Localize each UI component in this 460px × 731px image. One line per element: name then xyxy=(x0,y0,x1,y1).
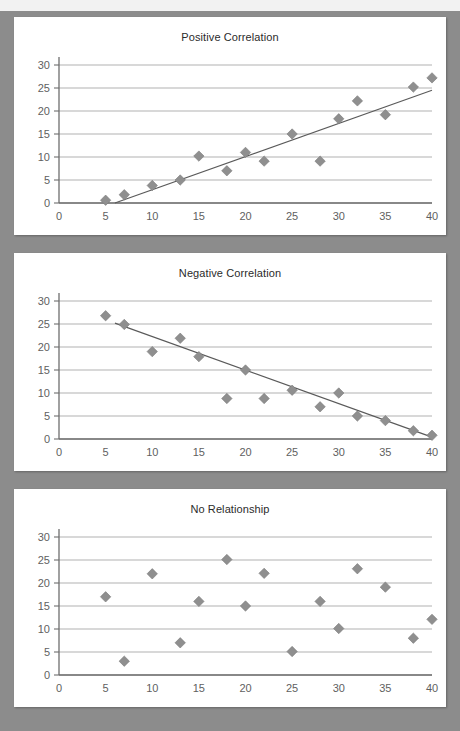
x-tick-label: 25 xyxy=(286,446,298,458)
data-point-marker xyxy=(315,402,325,412)
data-point-marker xyxy=(352,564,362,574)
x-tick-label: 5 xyxy=(103,446,109,458)
data-point-marker xyxy=(427,73,437,83)
data-point-marker xyxy=(240,365,250,375)
x-tick-label: 15 xyxy=(193,682,205,694)
data-point-marker xyxy=(287,129,297,139)
data-point-marker xyxy=(259,393,269,403)
y-tick-label: 5 xyxy=(44,646,50,658)
scatter-plot: 0510152025300510152025303540 xyxy=(14,253,446,471)
data-point-marker xyxy=(240,147,250,157)
x-tick-label: 20 xyxy=(239,210,251,222)
y-tick-label: 25 xyxy=(38,554,50,566)
x-tick-label: 10 xyxy=(146,210,158,222)
y-tick-label: 5 xyxy=(44,410,50,422)
data-point-marker xyxy=(222,393,232,403)
y-tick-label: 15 xyxy=(38,128,50,140)
data-point-marker xyxy=(175,333,185,343)
data-point-marker xyxy=(100,195,110,205)
data-point-marker xyxy=(175,638,185,648)
data-point-marker xyxy=(222,166,232,176)
x-tick-label: 40 xyxy=(426,446,438,458)
x-tick-label: 0 xyxy=(56,446,62,458)
x-tick-label: 30 xyxy=(333,210,345,222)
data-point-marker xyxy=(380,582,390,592)
x-tick-label: 35 xyxy=(379,682,391,694)
y-tick-label: 5 xyxy=(44,174,50,186)
chart-card: Negative Correlation05101520253005101520… xyxy=(14,253,446,471)
x-tick-label: 40 xyxy=(426,210,438,222)
y-tick-label: 25 xyxy=(38,318,50,330)
data-point-marker xyxy=(287,646,297,656)
chart-card: Positive Correlation05101520253005101520… xyxy=(14,17,446,235)
data-point-marker xyxy=(194,151,204,161)
x-tick-label: 30 xyxy=(333,682,345,694)
x-tick-label: 10 xyxy=(146,682,158,694)
y-tick-label: 0 xyxy=(44,433,50,445)
data-point-marker xyxy=(352,96,362,106)
data-point-marker xyxy=(194,351,204,361)
y-tick-label: 20 xyxy=(38,577,50,589)
x-tick-label: 25 xyxy=(286,210,298,222)
y-tick-label: 25 xyxy=(38,82,50,94)
trendline xyxy=(115,90,432,203)
x-tick-label: 15 xyxy=(193,210,205,222)
x-tick-label: 5 xyxy=(103,682,109,694)
x-tick-label: 20 xyxy=(239,682,251,694)
data-point-marker xyxy=(315,156,325,166)
data-point-marker xyxy=(175,175,185,185)
data-point-marker xyxy=(334,388,344,398)
data-point-marker xyxy=(119,656,129,666)
x-tick-label: 25 xyxy=(286,682,298,694)
y-tick-label: 30 xyxy=(38,59,50,71)
data-point-marker xyxy=(408,82,418,92)
x-tick-label: 5 xyxy=(103,210,109,222)
y-tick-label: 0 xyxy=(44,669,50,681)
x-tick-label: 0 xyxy=(56,210,62,222)
data-point-marker xyxy=(408,426,418,436)
y-tick-label: 10 xyxy=(38,623,50,635)
data-point-marker xyxy=(222,554,232,564)
chart-card: No Relationship0510152025300510152025303… xyxy=(14,489,446,707)
data-point-marker xyxy=(147,569,157,579)
y-tick-label: 30 xyxy=(38,295,50,307)
y-tick-label: 10 xyxy=(38,151,50,163)
y-tick-label: 20 xyxy=(38,105,50,117)
data-point-marker xyxy=(408,633,418,643)
data-point-marker xyxy=(100,311,110,321)
data-point-marker xyxy=(287,385,297,395)
x-tick-label: 40 xyxy=(426,682,438,694)
data-point-marker xyxy=(194,596,204,606)
y-tick-label: 15 xyxy=(38,600,50,612)
data-point-marker xyxy=(427,614,437,624)
x-tick-label: 15 xyxy=(193,446,205,458)
data-point-marker xyxy=(380,415,390,425)
scatter-plot: 0510152025300510152025303540 xyxy=(14,489,446,707)
data-point-marker xyxy=(352,411,362,421)
data-point-marker xyxy=(259,156,269,166)
y-tick-label: 0 xyxy=(44,197,50,209)
x-tick-label: 20 xyxy=(239,446,251,458)
x-tick-label: 0 xyxy=(56,682,62,694)
data-point-marker xyxy=(240,601,250,611)
data-point-marker xyxy=(334,623,344,633)
x-tick-label: 30 xyxy=(333,446,345,458)
y-tick-label: 10 xyxy=(38,387,50,399)
data-point-marker xyxy=(315,596,325,606)
x-tick-label: 35 xyxy=(379,210,391,222)
y-tick-label: 30 xyxy=(38,531,50,543)
y-tick-label: 15 xyxy=(38,364,50,376)
x-tick-label: 10 xyxy=(146,446,158,458)
data-point-marker xyxy=(259,568,269,578)
data-point-marker xyxy=(147,180,157,190)
y-tick-label: 20 xyxy=(38,341,50,353)
data-point-marker xyxy=(100,592,110,602)
page-top-strip xyxy=(0,0,460,11)
data-point-marker xyxy=(147,346,157,356)
scatter-plot: 0510152025300510152025303540 xyxy=(14,17,446,235)
x-tick-label: 35 xyxy=(379,446,391,458)
charts-stack: Positive Correlation05101520253005101520… xyxy=(14,17,446,707)
